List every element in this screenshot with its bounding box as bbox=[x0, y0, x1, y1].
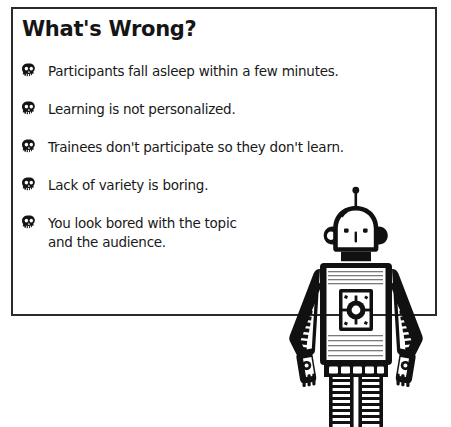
skull-icon bbox=[22, 63, 37, 79]
list-item-label: Learning is not personalized. bbox=[48, 100, 235, 119]
list-item: Trainees don't participate so they don't… bbox=[22, 138, 352, 157]
list-item-label: You look bored with the topic and the au… bbox=[48, 214, 237, 252]
skull-icon bbox=[22, 215, 37, 231]
list-item: Participants fall asleep within a few mi… bbox=[22, 62, 352, 81]
skull-icon bbox=[22, 139, 37, 155]
skull-icon bbox=[22, 101, 37, 117]
list-item-label: Participants fall asleep within a few mi… bbox=[48, 62, 339, 81]
robot-illustration bbox=[262, 185, 451, 427]
page-title: What's Wrong? bbox=[22, 17, 196, 41]
slide-canvas: What's Wrong? Participants fall asleep w… bbox=[0, 0, 451, 427]
list-item: Learning is not personalized. bbox=[22, 100, 352, 119]
skull-icon bbox=[22, 177, 37, 193]
list-item-label: Lack of variety is boring. bbox=[48, 176, 208, 195]
list-item-label: Trainees don't participate so they don't… bbox=[48, 138, 344, 157]
